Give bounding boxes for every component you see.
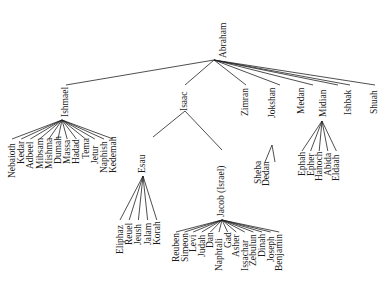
node-medan: Medan [297, 88, 306, 114]
node-ishmael: Ishmael [61, 87, 70, 117]
node-jokshan: Jokshan [268, 87, 277, 118]
node-zimran: Zimran [241, 88, 250, 116]
node-ishbak: Ishbak [344, 90, 353, 115]
node-midian: Midian [319, 90, 328, 117]
node-benjamin: Benjamin [275, 234, 284, 271]
node-dedan: Dedan [262, 161, 271, 186]
family-tree-diagram: Abraham Ishmael Isaac Zimran Jokshan Med… [0, 0, 388, 281]
node-kedemah: Kedemah [109, 137, 118, 173]
node-esau: Esau [138, 155, 147, 173]
node-jacob: Jacob (Israel) [217, 166, 226, 217]
node-isaac: Isaac [180, 91, 189, 111]
node-eldaah: Eldaah [332, 154, 341, 180]
node-korah: Korah [153, 221, 162, 245]
node-shuah: Shuah [370, 90, 379, 114]
node-abraham: Abraham [219, 23, 228, 58]
